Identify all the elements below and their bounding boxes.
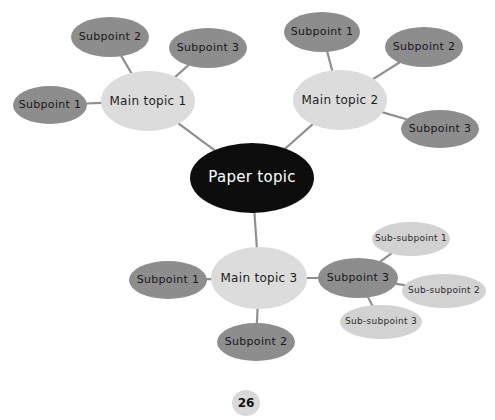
node-label: Subpoint 3 <box>409 123 472 135</box>
main-topic-node-main-topic-3[interactable]: Main topic 3 <box>211 247 307 309</box>
mind-map-diagram: Paper topicMain topic 1Subpoint 1Subpoin… <box>0 0 495 420</box>
node-label: Sub-subpoint 2 <box>408 286 480 295</box>
node-label: Subpoint 2 <box>79 31 142 43</box>
main-topic-node-main-topic-1[interactable]: Main topic 1 <box>101 71 195 131</box>
connector-sub3-subsub1 <box>380 254 391 262</box>
node-label: Main topic 2 <box>301 94 378 107</box>
subpoint-node-subpoint-2[interactable]: Subpoint 2 <box>71 17 149 57</box>
connector-main2-sub1 <box>327 52 332 71</box>
node-label: Sub-subpoint 3 <box>345 317 417 326</box>
connector-main3-sub2 <box>257 309 258 323</box>
connector-sub3-subsub3 <box>368 297 372 305</box>
subpoint-node-subpoint-1[interactable]: Subpoint 1 <box>284 12 360 52</box>
subpoint-node-subpoint-1[interactable]: Subpoint 1 <box>129 261 207 299</box>
node-label: Subpoint 3 <box>327 272 390 284</box>
connector-main2-sub2 <box>373 63 399 79</box>
node-label: Main topic 1 <box>109 95 186 108</box>
sub-subpoint-node-sub-subpoint-1[interactable]: Sub-subpoint 1 <box>372 222 450 256</box>
main-topic-node-main-topic-2[interactable]: Main topic 2 <box>293 70 387 130</box>
connector-root-main-2 <box>285 124 312 148</box>
subpoint-node-subpoint-2[interactable]: Subpoint 2 <box>217 323 295 361</box>
connector-main2-sub3 <box>383 112 407 119</box>
node-label: Subpoint 3 <box>177 42 240 54</box>
root-node-paper-topic[interactable]: Paper topic <box>190 143 314 213</box>
connector-root-main-1 <box>179 124 215 150</box>
connector-root-main-3 <box>254 213 256 247</box>
subpoint-node-subpoint-3[interactable]: Subpoint 3 <box>401 110 479 148</box>
node-label: Subpoint 2 <box>393 41 456 53</box>
node-label: Subpoint 1 <box>19 99 82 111</box>
page-number-badge: 26 <box>232 390 260 416</box>
sub-subpoint-node-sub-subpoint-2[interactable]: Sub-subpoint 2 <box>402 274 486 308</box>
node-label: Main topic 3 <box>220 272 297 285</box>
subpoint-node-subpoint-3[interactable]: Subpoint 3 <box>169 28 247 68</box>
connector-main1-sub1 <box>87 103 101 104</box>
connector-main1-sub3 <box>176 65 189 76</box>
node-label: Subpoint 2 <box>225 336 288 348</box>
node-label: Subpoint 1 <box>291 26 354 38</box>
subpoint-node-subpoint-3[interactable]: Subpoint 3 <box>318 258 398 298</box>
subpoint-node-subpoint-1[interactable]: Subpoint 1 <box>13 86 87 124</box>
node-label: Sub-subpoint 1 <box>375 234 447 243</box>
node-label: Subpoint 1 <box>137 274 200 286</box>
node-label: Paper topic <box>208 170 296 186</box>
sub-subpoint-node-sub-subpoint-3[interactable]: Sub-subpoint 3 <box>340 305 422 339</box>
subpoint-node-subpoint-2[interactable]: Subpoint 2 <box>385 27 463 67</box>
connector-main1-sub2 <box>121 56 131 73</box>
